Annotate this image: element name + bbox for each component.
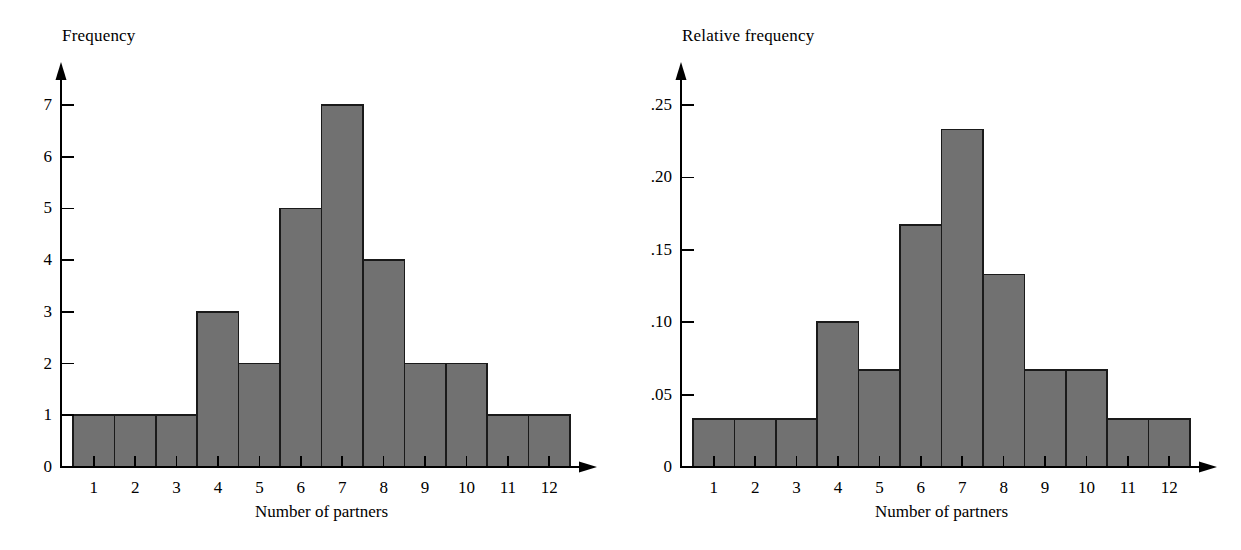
x-axis-tick-label: 4	[198, 479, 238, 496]
y-axis-tick-label: 5	[0, 199, 52, 216]
x-axis-tick-label: 6	[281, 479, 321, 496]
histogram-bar	[446, 364, 487, 467]
y-axis-tick-label: 1	[0, 406, 52, 423]
frequency-histogram-panel: Frequency Number of partners 01234567123…	[0, 0, 620, 550]
x-axis-tick-label: 3	[157, 479, 197, 496]
x-axis-tick-label: 7	[942, 479, 982, 496]
y-axis-tick-label: .25	[620, 96, 672, 113]
bars-group	[73, 105, 570, 467]
x-axis-tick-label: 1	[74, 479, 114, 496]
histogram-bar	[363, 260, 404, 467]
histogram-bar	[900, 225, 941, 467]
x-axis-tick-label: 12	[1149, 479, 1189, 496]
y-axis-tick-label: 7	[0, 96, 52, 113]
y-axis-tick-label: 2	[0, 355, 52, 372]
y-axis-arrowhead	[56, 62, 67, 80]
two-histogram-figure: Frequency Number of partners 01234567123…	[0, 0, 1241, 550]
x-axis-tick-label: 2	[115, 479, 155, 496]
x-axis-tick-label: 4	[818, 479, 858, 496]
y-axis-tick-label: .05	[620, 386, 672, 403]
x-axis-tick-label: 7	[322, 479, 362, 496]
histogram-bar	[197, 312, 238, 467]
y-axis-tick-label: 6	[0, 148, 52, 165]
histogram-bar	[942, 130, 983, 467]
x-axis-tick-label: 9	[405, 479, 445, 496]
x-axis-tick-label: 3	[777, 479, 817, 496]
bars-group	[693, 130, 1190, 467]
x-axis-tick-label: 5	[859, 479, 899, 496]
x-axis-caption-left: Number of partners	[172, 502, 472, 522]
x-axis-tick-label: 8	[364, 479, 404, 496]
y-axis-ticks	[681, 105, 694, 395]
y-axis-tick-label: 3	[0, 303, 52, 320]
x-axis-tick-label: 12	[529, 479, 569, 496]
x-axis-tick-label: 10	[1066, 479, 1106, 496]
frequency-histogram-plot	[0, 0, 620, 550]
y-axis-tick-label: 0	[620, 458, 672, 475]
histogram-bar	[239, 364, 280, 467]
histogram-bar	[817, 322, 858, 467]
y-axis-tick-label: .10	[620, 313, 672, 330]
y-axis-tick-label: 0	[0, 458, 52, 475]
histogram-bar	[983, 274, 1024, 467]
x-axis-tick-label: 6	[901, 479, 941, 496]
relative-frequency-histogram-svg	[620, 0, 1240, 550]
x-axis-arrowhead	[1199, 462, 1217, 473]
x-axis-tick-label: 5	[239, 479, 279, 496]
x-axis-tick-label: 10	[446, 479, 486, 496]
y-axis-tick-label: 4	[0, 251, 52, 268]
y-axis-tick-label: .20	[620, 168, 672, 185]
x-axis-caption-right: Number of partners	[792, 502, 1092, 522]
y-axis-ticks	[61, 105, 74, 415]
x-axis-tick-label: 11	[488, 479, 528, 496]
histogram-bar	[322, 105, 363, 467]
histogram-bar	[1024, 370, 1065, 467]
histogram-bar	[404, 364, 445, 467]
x-axis-tick-label: 9	[1025, 479, 1065, 496]
relative-frequency-histogram-plot	[620, 0, 1240, 550]
x-axis-tick-label: 11	[1108, 479, 1148, 496]
relative-frequency-histogram-panel: Relative frequency Number of partners 0.…	[620, 0, 1240, 550]
histogram-bar	[280, 208, 321, 467]
y-axis-arrowhead	[676, 62, 687, 80]
x-axis-tick-label: 1	[694, 479, 734, 496]
y-axis-tick-label: .15	[620, 241, 672, 258]
frequency-histogram-svg	[0, 0, 620, 550]
histogram-bar	[1066, 370, 1107, 467]
x-axis-tick-label: 2	[735, 479, 775, 496]
x-axis-tick-label: 8	[984, 479, 1024, 496]
x-axis-arrowhead	[579, 462, 597, 473]
histogram-bar	[859, 370, 900, 467]
